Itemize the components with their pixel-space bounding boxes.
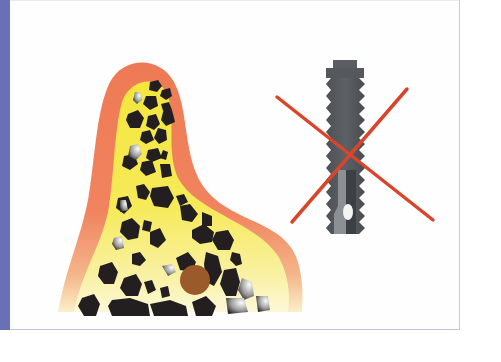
nerve-canal <box>180 265 210 295</box>
implant-hole <box>343 204 353 220</box>
illustration <box>0 0 501 362</box>
